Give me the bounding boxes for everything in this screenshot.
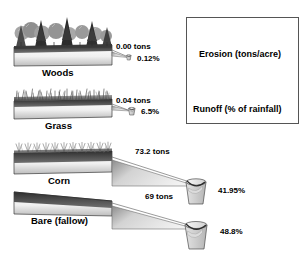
runoff-value-bare: 48.8%	[220, 228, 243, 236]
bucket-grass	[128, 107, 135, 115]
erosion-value-grass: 0.04 tons	[116, 97, 151, 105]
plot-label-woods: Woods	[42, 68, 74, 78]
soil-slab-grass	[14, 99, 112, 119]
erosion-wedge-bare	[112, 206, 196, 229]
erosion-wedge-corn	[112, 160, 196, 186]
erosion-value-corn: 73.2 tons	[135, 148, 170, 156]
bucket-woods	[126, 55, 131, 60]
runoff-value-woods: 0.12%	[137, 55, 160, 63]
plot-label-bare: Bare (fallow)	[31, 216, 88, 226]
runoff-value-grass: 6.5%	[141, 108, 159, 116]
plot-label-corn: Corn	[48, 176, 70, 186]
erosion-value-woods: 0.00 tons	[116, 43, 151, 51]
tree-cover-woods	[14, 17, 112, 49]
bucket-bare	[185, 222, 207, 250]
plot-label-grass: Grass	[45, 121, 72, 131]
bucket-corn	[186, 179, 206, 204]
erosion-runoff-diagram: Erosion (tons/acre) Runoff (% of rainfal…	[0, 0, 303, 256]
legend-runoff-label: Runoff (% of rainfall)	[193, 105, 282, 114]
legend-erosion-label: Erosion (tons/acre)	[199, 50, 281, 59]
erosion-wedge-grass	[112, 106, 131, 111]
erosion-wedge-woods	[112, 52, 128, 58]
plot-woods	[14, 17, 131, 66]
runoff-value-corn: 41.95%	[218, 187, 245, 195]
erosion-value-bare: 69 tons	[145, 193, 173, 201]
soil-slab-bare	[14, 192, 112, 216]
grass-cover	[14, 89, 112, 101]
soil-slab-corn	[14, 151, 112, 174]
